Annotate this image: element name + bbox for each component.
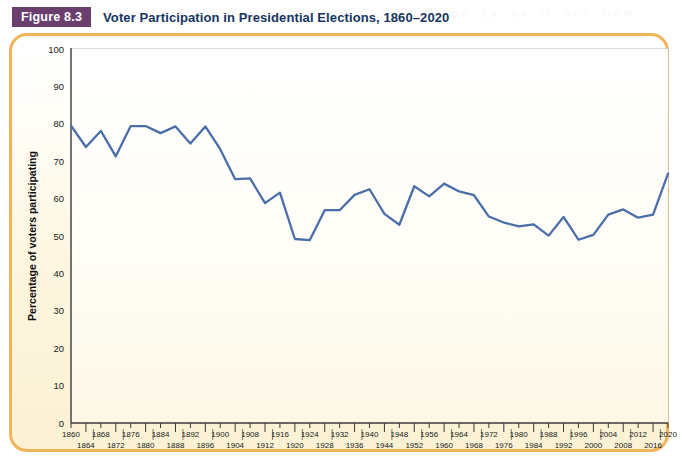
x-tick-label: 1880 [137, 441, 155, 450]
y-tick-label: 70 [53, 156, 64, 167]
x-tick-label: 2020 [659, 430, 677, 439]
x-tick-label: 1924 [301, 430, 319, 439]
y-tick-label: 30 [53, 305, 64, 316]
x-tick-label: 1960 [435, 441, 453, 450]
y-tick-label: 100 [48, 44, 64, 55]
x-tick-label: 1908 [241, 430, 259, 439]
x-tick-label: 1896 [196, 441, 214, 450]
y-axis-title-text: Percentage of voters participating [26, 151, 38, 321]
x-tick-label: 1964 [450, 430, 468, 439]
x-tick-label: 2016 [644, 441, 662, 450]
y-tick-label: 0 [59, 418, 64, 429]
x-tick-label: 1872 [107, 441, 125, 450]
x-tick-label: 2012 [629, 430, 647, 439]
x-tick-label: 1972 [480, 430, 498, 439]
x-tick-label: 1900 [211, 430, 229, 439]
y-tick-label: 50 [53, 231, 64, 242]
x-tick-label: 1912 [256, 441, 274, 450]
x-tick-label: 2000 [584, 441, 602, 450]
x-tick-label: 1980 [510, 430, 528, 439]
x-tick-label: 1892 [182, 430, 200, 439]
x-tick-label: 1904 [226, 441, 244, 450]
x-tick-label: 2004 [599, 430, 617, 439]
x-tick-label: 1968 [465, 441, 483, 450]
x-tick-label: 1876 [122, 430, 140, 439]
x-tick-label: 1932 [331, 430, 349, 439]
y-tick-label: 10 [53, 380, 64, 391]
plot-background [71, 49, 668, 423]
x-tick-label: 1940 [361, 430, 379, 439]
x-tick-label: 1884 [152, 430, 170, 439]
x-tick-label: 1976 [495, 441, 513, 450]
x-tick-label: 1936 [346, 441, 364, 450]
line-chart-svg: 0102030405060708090100 18601864186818721… [0, 0, 687, 470]
x-tick-label: 1920 [286, 441, 304, 450]
y-axis-tick-labels: 0102030405060708090100 [48, 44, 64, 429]
x-tick-label: 1956 [420, 430, 438, 439]
x-tick-label: 1864 [77, 441, 95, 450]
x-tick-label: 1888 [167, 441, 185, 450]
x-tick-label: 1916 [271, 430, 289, 439]
x-tick-label: 1944 [376, 441, 394, 450]
x-tick-label: 1860 [62, 430, 80, 439]
x-tick-label: 1952 [405, 441, 423, 450]
x-tick-label: 2008 [614, 441, 632, 450]
y-tick-label: 40 [53, 268, 64, 279]
x-tick-label: 1868 [92, 430, 110, 439]
x-axis-tick-labels: 1860186418681872187618801884188818921896… [62, 430, 677, 450]
x-tick-label: 1948 [390, 430, 408, 439]
y-tick-label: 20 [53, 343, 64, 354]
y-axis-title: Percentage of voters participating [26, 151, 38, 321]
x-tick-label: 1928 [316, 441, 334, 450]
chart-canvas: 0102030405060708090100 18601864186818721… [0, 0, 687, 470]
x-tick-label: 1992 [555, 441, 573, 450]
x-tick-label: 1984 [525, 441, 543, 450]
y-tick-label: 60 [53, 193, 64, 204]
y-tick-label: 90 [53, 81, 64, 92]
x-tick-label: 1988 [540, 430, 558, 439]
x-tick-label: 1996 [570, 430, 588, 439]
y-tick-label: 80 [53, 118, 64, 129]
